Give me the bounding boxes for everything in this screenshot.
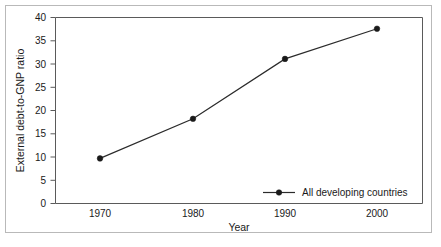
y-tick-label-30: 30 [35,59,47,70]
y-axis-ticks [51,18,56,204]
legend-marker-icon [276,190,282,196]
figure-container: 0 5 10 15 20 25 30 35 40 External debt-t… [0,0,441,247]
data-point-1990 [282,56,288,62]
data-point-2000 [374,26,380,32]
line-chart: 0 5 10 15 20 25 30 35 40 External debt-t… [0,0,441,247]
x-tick-label-1990: 1990 [274,208,297,219]
x-tick-label-1970: 1970 [89,208,112,219]
y-tick-label-20: 20 [35,105,47,116]
x-tick-label-1980: 1980 [182,208,205,219]
y-tick-label-15: 15 [35,128,47,139]
x-axis-tick-labels: 1970 1980 1990 2000 [89,208,389,219]
x-tick-label-2000: 2000 [366,208,389,219]
data-point-1980 [190,116,196,122]
x-axis-title: Year [228,221,250,233]
y-tick-label-0: 0 [40,198,46,209]
legend-label-all-developing-countries: All developing countries [302,187,408,198]
y-tick-label-25: 25 [35,82,47,93]
series-line-path [100,29,377,159]
y-tick-label-40: 40 [35,12,47,23]
y-tick-label-10: 10 [35,152,47,163]
y-axis-tick-labels: 0 5 10 15 20 25 30 35 40 [35,12,47,209]
y-axis-title: External debt-to-GNP ratio [14,49,26,173]
y-tick-label-5: 5 [40,175,46,186]
y-tick-label-35: 35 [35,35,47,46]
plot-frame [56,18,423,204]
series-all-developing-countries [97,26,380,161]
chart-legend: All developing countries [263,187,408,198]
data-point-1970 [97,156,103,162]
